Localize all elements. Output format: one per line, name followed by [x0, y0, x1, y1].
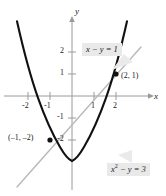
- intersection-point-2-1: [113, 71, 118, 76]
- x-tick-label--2: -2: [22, 101, 29, 110]
- y-tick-label-1: 1: [60, 68, 64, 77]
- parabola-callout-tail: [118, 150, 132, 163]
- intersection-point-neg1-neg2: [47, 137, 52, 142]
- point-label-neg1-neg2: (–1, –2): [8, 133, 33, 142]
- x-tick-label-1: 1: [91, 101, 95, 110]
- math-figure: x y -2 -1 1 2 2 1 -1 -2 (2, 1) (–1, –2) …: [0, 0, 166, 196]
- x-axis-label: x: [154, 91, 158, 101]
- parabola-equation-rest: − y = 3: [118, 164, 146, 174]
- y-axis-label: y: [75, 6, 79, 16]
- y-tick-label--2: -2: [57, 134, 64, 143]
- line-equation-callout: x − y = 1: [82, 43, 122, 56]
- point-label-2-1: (2, 1): [121, 71, 138, 80]
- x-tick-label--1: -1: [44, 101, 51, 110]
- line-equation-text: x − y = 1: [86, 44, 118, 54]
- parabola-equation-callout: x2 − y = 3: [107, 163, 150, 176]
- y-tick-label-2: 2: [60, 46, 64, 55]
- x-tick-label-2: 2: [113, 101, 117, 110]
- y-tick-label--1: -1: [57, 112, 64, 121]
- y-axis-arrow: [69, 16, 75, 22]
